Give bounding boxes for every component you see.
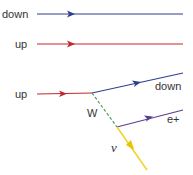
arrow-icon	[144, 116, 153, 122]
neutrino-label: ν	[111, 140, 117, 155]
positron-label: e+	[167, 113, 180, 125]
positron: e+	[117, 110, 183, 127]
incoming-up-label: up	[15, 88, 27, 100]
w-boson-label: W	[87, 107, 98, 119]
spectator-up-label: up	[15, 38, 27, 50]
outgoing-down-label: down	[155, 80, 181, 92]
spectator-down-label: down	[2, 8, 28, 20]
spectator-down-quark: down	[2, 8, 183, 20]
feynman-diagram: down up up down W e+ ν	[0, 0, 193, 175]
w-boson: W	[87, 93, 117, 127]
neutrino: ν	[111, 127, 147, 170]
spectator-up-quark: up	[15, 38, 183, 50]
incoming-up-quark: up	[15, 88, 92, 100]
outgoing-down-quark: down	[92, 73, 183, 93]
